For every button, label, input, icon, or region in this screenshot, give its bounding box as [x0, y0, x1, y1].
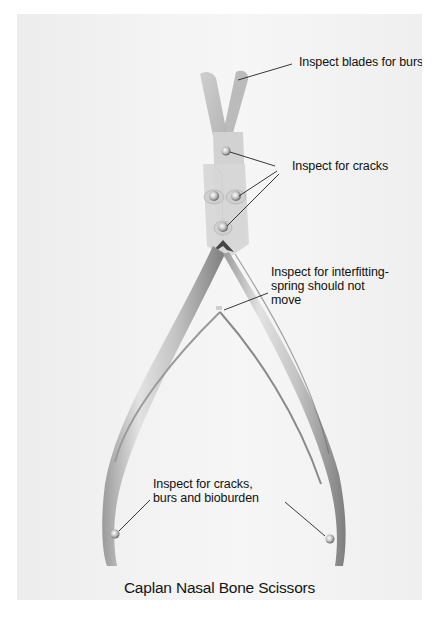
handle-knob-right — [326, 535, 335, 544]
callout-cracks: Inspect for cracks — [292, 159, 388, 173]
callout-handles: Inspect for cracks, burs and bioburden — [153, 477, 259, 505]
callout-interfitting-line-2: spring should not — [271, 279, 389, 293]
scissors-illustration — [17, 14, 422, 600]
callout-interfitting-line-1: Inspect for interfitting- — [271, 265, 389, 279]
figure-caption: Caplan Nasal Bone Scissors — [17, 579, 422, 597]
callout-handles-line-1: Inspect for cracks, — [153, 477, 259, 491]
callout-interfitting-line-3: move — [271, 293, 389, 307]
callout-handles-line-2: burs and bioburden — [153, 491, 259, 505]
handle-knob-left — [111, 530, 120, 539]
photo-panel: Inspect blades for burs Inspect for crac… — [17, 14, 422, 600]
callout-blades: Inspect blades for burs — [299, 55, 422, 69]
callout-interfitting: Inspect for interfitting- spring should … — [271, 265, 389, 307]
